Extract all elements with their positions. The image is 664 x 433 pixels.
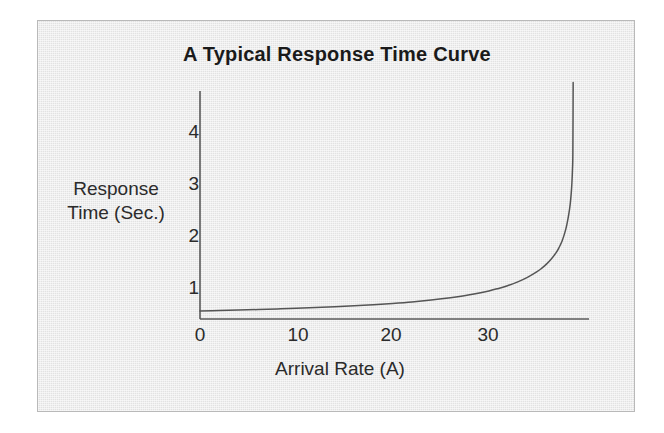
response-time-curve: [200, 82, 573, 311]
chart-screenshot: A Typical Response Time Curve Response T…: [0, 0, 664, 433]
axis-lines: [200, 91, 589, 319]
figure-panel: A Typical Response Time Curve Response T…: [37, 20, 635, 412]
plot-area: [38, 21, 636, 413]
